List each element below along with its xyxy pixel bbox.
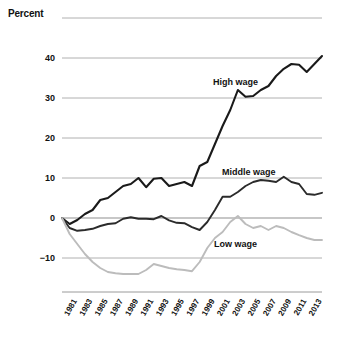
x-tick-label-2003: 2003 [231, 297, 248, 317]
x-tick-label-2013: 2013 [307, 297, 324, 317]
x-tick-label-2011: 2011 [292, 297, 309, 317]
x-tick-label-1993: 1993 [154, 297, 171, 317]
x-tick-label-1999: 1999 [200, 297, 217, 317]
y-tick-label-20: 20 [45, 133, 55, 143]
y-tick-label-0: 0 [50, 213, 55, 223]
x-tick-label-1981: 1981 [62, 297, 79, 317]
x-tick-label-1989: 1989 [124, 297, 141, 317]
y-axis-tick-labels: 403020100−10 [40, 53, 55, 263]
x-tick-label-1983: 1983 [78, 297, 95, 317]
chart-canvas: 403020100−10 198119831985198719891991199… [0, 0, 338, 338]
x-tick-label-2007: 2007 [261, 297, 278, 317]
series-label-low-wage: Low wage [214, 239, 257, 249]
x-tick-label-1987: 1987 [108, 297, 125, 317]
x-tick-label-2005: 2005 [246, 297, 263, 317]
x-tick-label-1985: 1985 [93, 297, 110, 317]
x-tick-label-1991: 1991 [139, 297, 156, 317]
data-line-low-wage [62, 216, 322, 274]
y-tick-label-10: 10 [45, 173, 55, 183]
wage-growth-line-chart: Percent 403020100−10 1981198319851987198… [0, 0, 338, 338]
x-tick-label-1997: 1997 [185, 297, 202, 317]
y-tick-label-40: 40 [45, 53, 55, 63]
x-tick-label-2009: 2009 [276, 297, 293, 317]
x-axis-tick-labels: 1981198319851987198919911993199519971999… [62, 297, 324, 317]
series-label-middle-wage: Middle wage [222, 167, 276, 177]
series-label-high-wage: High wage [213, 77, 258, 87]
data-series-group [62, 56, 322, 274]
x-tick-label-2001: 2001 [215, 297, 232, 317]
gridlines-group [62, 18, 322, 292]
y-tick-label--10: −10 [40, 253, 55, 263]
x-tick-label-1995: 1995 [169, 297, 186, 317]
y-tick-label-30: 30 [45, 93, 55, 103]
data-line-high-wage [62, 56, 322, 224]
